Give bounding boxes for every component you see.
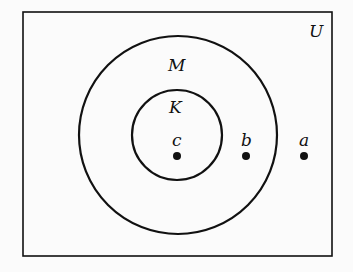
venn-diagram: U M K c b a <box>0 0 353 272</box>
set-k-label: K <box>168 97 183 117</box>
point-b-dot <box>242 152 250 160</box>
point-b-label: b <box>241 130 252 150</box>
point-a-dot <box>300 152 308 160</box>
point-c-dot <box>173 152 181 160</box>
set-m-label: M <box>167 55 186 75</box>
point-a-label: a <box>299 130 309 150</box>
point-c-label: c <box>172 130 182 150</box>
universe-label: U <box>309 21 324 41</box>
